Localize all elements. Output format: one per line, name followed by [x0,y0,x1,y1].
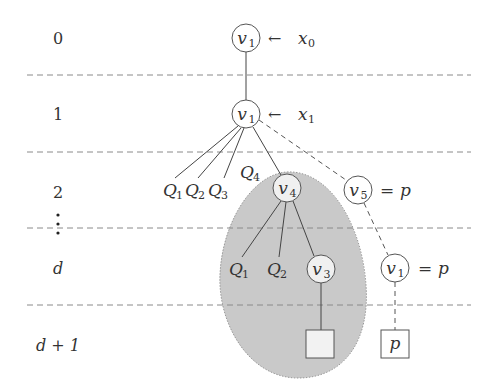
level-label-2: 2 [53,183,63,202]
node-v1-right: v 1 [381,254,409,282]
svg-text:Q: Q [185,180,199,200]
shaded-leaf-box [306,330,334,358]
svg-text:1: 1 [176,189,183,202]
svg-text:v: v [237,28,247,48]
svg-text:0: 0 [308,37,315,50]
svg-text:2: 2 [198,189,205,202]
edge-v5-to-v1-right [364,203,388,255]
level-tree-diagram: 0 1 2 d d + 1 v 1 ← x 0 v 1 ← x 1 Q [0,0,491,389]
svg-text:4: 4 [290,187,297,200]
annotation-x0: ← x 0 [268,28,315,50]
node-v5: v 5 [344,176,372,204]
svg-text:←: ← [268,29,281,48]
leaf-q2-level2: Q 2 [185,180,205,202]
edge-v1-to-v5 [259,120,346,180]
svg-text:Q: Q [229,259,243,279]
node-v3: v 3 [307,255,335,283]
svg-text:1: 1 [249,37,256,50]
svg-text:Q: Q [267,259,281,279]
svg-text:3: 3 [221,189,228,202]
svg-text:Q: Q [240,162,254,182]
edge-v1-to-q2 [198,128,241,178]
svg-text:5: 5 [361,189,368,202]
svg-text:1: 1 [249,113,256,126]
svg-text:1: 1 [308,113,315,126]
annotation-v5-equals-p: = p [380,180,411,200]
svg-text:v: v [278,178,288,198]
svg-text:=: = [418,258,432,278]
svg-text:p: p [438,258,449,278]
node-level1-v1: v 1 [232,100,260,128]
edge-v1-to-v4 [253,127,281,175]
svg-text:p: p [390,333,401,353]
leaf-q1-level2: Q 1 [163,180,183,202]
svg-text:v: v [237,104,247,124]
svg-text:p: p [400,180,411,200]
svg-text:Q: Q [163,180,177,200]
node-v4: v 4 [273,174,301,202]
leaf-q3-level2: Q 3 [208,180,228,202]
svg-text:1: 1 [242,268,249,281]
annotation-v1-equals-p: = p [418,258,449,278]
svg-text:v: v [312,259,322,279]
svg-text:4: 4 [253,171,260,184]
vertical-ellipsis-icon [56,213,59,234]
svg-text:←: ← [268,105,281,124]
svg-text:Q: Q [208,180,222,200]
svg-text:x: x [298,28,308,48]
svg-text:v: v [349,180,359,200]
level-label-d: d [53,259,63,278]
svg-text:x: x [298,104,308,124]
svg-text:=: = [380,180,394,200]
level-label-1: 1 [53,105,63,124]
svg-text:3: 3 [324,268,331,281]
svg-text:v: v [386,258,396,278]
leaf-q4-label: Q 4 [240,162,260,184]
svg-text:2: 2 [280,268,287,281]
svg-text:1: 1 [398,267,405,280]
annotation-x1: ← x 1 [268,104,315,126]
level-label-0: 0 [53,29,63,48]
node-root-v1: v 1 [232,24,260,52]
level-label-d-plus-1: d + 1 [36,336,80,355]
p-leaf-box: p [381,330,409,358]
